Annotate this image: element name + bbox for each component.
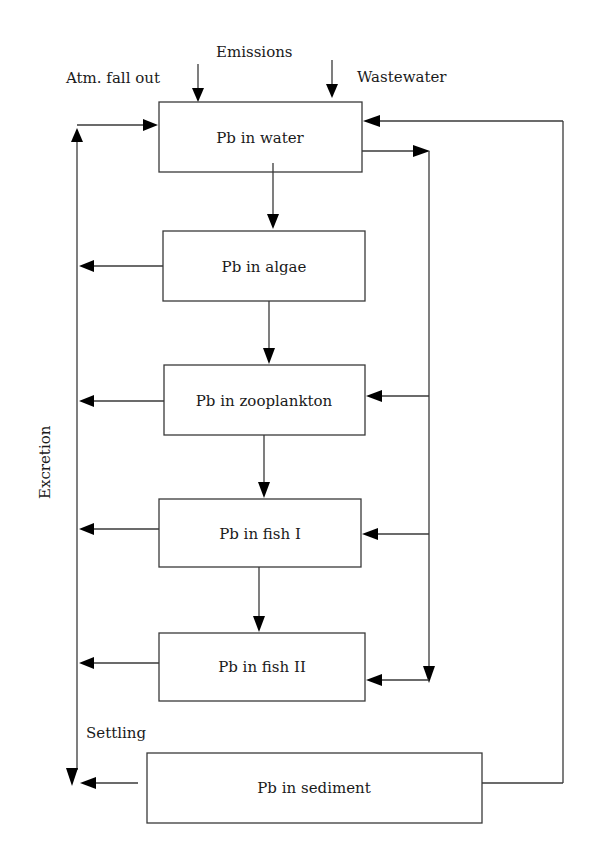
excretion-label: Excretion bbox=[36, 425, 54, 499]
compartment-fish-2-label: Pb in fish II bbox=[218, 658, 306, 676]
compartment-water: Pb in water bbox=[159, 102, 362, 172]
atm-fall-out-label: Atm. fall out bbox=[65, 69, 160, 87]
water-to-algae-arrow bbox=[267, 163, 279, 229]
uptake-to-fish-1-arrow bbox=[362, 528, 429, 540]
lead-food-chain-diagram: Emissions Atm. fall out Wastewater Pb in… bbox=[0, 0, 591, 853]
compartment-algae-label: Pb in algae bbox=[222, 258, 307, 276]
zooplankton-to-fish-1-arrow bbox=[258, 435, 270, 498]
algae-excretion-arrow bbox=[79, 260, 163, 272]
sediment-resuspension-line bbox=[363, 115, 563, 783]
wastewater-arrow bbox=[326, 60, 338, 98]
excretion-return-line bbox=[71, 119, 158, 770]
compartment-fish-2: Pb in fish II bbox=[159, 633, 365, 701]
emissions-label: Emissions bbox=[216, 43, 293, 61]
compartment-fish-1: Pb in fish I bbox=[159, 499, 361, 567]
compartment-algae: Pb in algae bbox=[163, 231, 365, 301]
fish-2-excretion-arrow bbox=[79, 657, 159, 669]
compartment-water-label: Pb in water bbox=[216, 129, 304, 147]
compartment-sediment: Pb in sediment bbox=[147, 753, 482, 823]
fish-1-excretion-arrow bbox=[79, 523, 159, 535]
compartment-zooplankton-label: Pb in zooplankton bbox=[196, 392, 333, 410]
algae-to-zooplankton-arrow bbox=[263, 301, 275, 364]
zooplankton-excretion-arrow bbox=[79, 395, 164, 407]
compartment-sediment-label: Pb in sediment bbox=[257, 779, 370, 797]
water-uptake-distribution-line bbox=[362, 145, 435, 683]
settling-label: Settling bbox=[86, 724, 146, 742]
emissions-arrow bbox=[192, 64, 204, 102]
compartment-fish-1-label: Pb in fish I bbox=[219, 525, 301, 543]
uptake-to-zooplankton-arrow bbox=[366, 390, 429, 402]
uptake-to-fish-2-arrow bbox=[366, 674, 429, 686]
sediment-left-arrow bbox=[80, 777, 138, 789]
compartment-zooplankton: Pb in zooplankton bbox=[164, 365, 365, 435]
fish-1-to-fish-2-arrow bbox=[253, 567, 265, 632]
settling-down-arrow bbox=[66, 768, 78, 786]
wastewater-label: Wastewater bbox=[357, 68, 447, 86]
